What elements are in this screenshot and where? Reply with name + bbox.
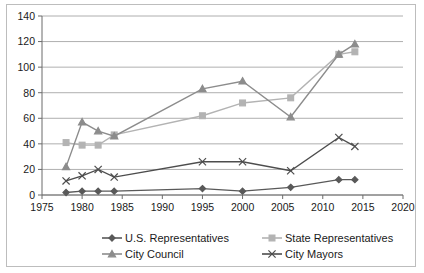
legend-item-state-representatives[interactable]: State Representatives	[262, 232, 394, 244]
x-axis-ticks: 1975198019851990199520002005201020152020	[30, 195, 415, 213]
series-state-representatives	[63, 49, 358, 148]
data-point-2006	[288, 184, 294, 190]
ytick-label-60: 60	[23, 112, 35, 124]
xtick-label-1980: 1980	[70, 201, 94, 213]
series-city-council	[63, 41, 359, 170]
data-point-2000	[240, 100, 246, 106]
xtick-label-2000: 2000	[231, 201, 255, 213]
data-point-1995	[199, 186, 205, 192]
data-point-1984	[111, 188, 117, 194]
legend-label: U.S. Representatives	[125, 232, 229, 244]
data-point-2000	[239, 78, 246, 84]
legend-item-city-council[interactable]: City Council	[102, 248, 184, 260]
xtick-label-2020: 2020	[391, 201, 415, 213]
xtick-label-1990: 1990	[151, 201, 175, 213]
legend-item-u-s-representatives[interactable]: U.S. Representatives	[102, 232, 229, 244]
data-point-1980	[79, 188, 85, 194]
ytick-label-120: 120	[17, 35, 35, 47]
ytick-label-80: 80	[23, 87, 35, 99]
data-point-2006	[288, 95, 294, 101]
ytick-label-140: 140	[17, 10, 35, 22]
xtick-label-2015: 2015	[351, 201, 375, 213]
series-line	[66, 52, 355, 145]
xtick-label-1975: 1975	[30, 201, 54, 213]
data-point-1995	[200, 113, 206, 119]
legend-marker-square-icon	[269, 235, 275, 241]
data-point-1980	[79, 119, 86, 125]
chart-figure: 0204060801001201401975198019851990199520…	[6, 4, 416, 267]
gridlines: 020406080100120140	[17, 10, 403, 201]
data-point-2000	[239, 188, 245, 194]
chart-svg: 0204060801001201401975198019851990199520…	[7, 5, 417, 268]
data-point-1978	[63, 163, 70, 169]
xtick-label-1985: 1985	[111, 201, 135, 213]
legend-label: City Council	[125, 248, 184, 260]
data-point-1978	[63, 140, 69, 146]
line-chart: 0204060801001201401975198019851990199520…	[7, 5, 417, 268]
data-point-2014	[352, 49, 358, 55]
xtick-label-2005: 2005	[271, 201, 295, 213]
data-point-1982	[95, 128, 102, 134]
ytick-label-40: 40	[23, 138, 35, 150]
series-u-s-representatives	[63, 177, 358, 196]
xtick-label-1995: 1995	[191, 201, 215, 213]
legend-label: City Mayors	[285, 248, 344, 260]
legend-label: State Representatives	[285, 232, 394, 244]
ytick-label-20: 20	[23, 163, 35, 175]
data-point-2014	[352, 177, 358, 183]
data-point-1982	[95, 188, 101, 194]
data-point-1980	[79, 142, 85, 148]
series-city-mayors	[62, 134, 358, 185]
legend-item-city-mayors[interactable]: City Mayors	[262, 248, 344, 260]
xtick-label-2010: 2010	[311, 201, 335, 213]
ytick-label-0: 0	[29, 189, 35, 201]
legend-marker-diamond-icon	[109, 235, 115, 241]
series-line	[66, 180, 355, 193]
chart-legend: U.S. RepresentativesState Representative…	[102, 232, 394, 260]
data-point-2012	[336, 177, 342, 183]
data-point-1982	[95, 142, 101, 148]
series-line	[66, 44, 355, 167]
ytick-label-100: 100	[17, 61, 35, 73]
